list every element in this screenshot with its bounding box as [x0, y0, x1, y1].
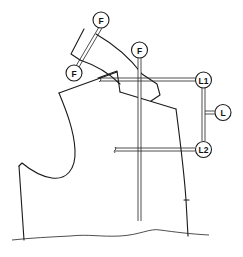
label-l1: L1: [196, 72, 212, 88]
label-f-top-text: F: [98, 16, 103, 26]
guide-horizontal-l2: [114, 147, 195, 153]
guide-horizontal-l1: [99, 77, 195, 82]
garment-pattern-diagram: F F F L1 L L2: [0, 0, 243, 257]
label-l2-text: L2: [199, 145, 209, 155]
guide-vertical-f: [138, 58, 141, 221]
label-f-top: F: [93, 12, 109, 28]
label-l-text: L: [220, 108, 225, 118]
label-f-left: F: [66, 65, 82, 81]
label-l: L: [215, 105, 231, 121]
label-l1-text: L1: [199, 76, 209, 86]
guide-collar-f: [76, 27, 102, 67]
label-f-mid: F: [132, 42, 148, 58]
label-l2: L2: [196, 142, 212, 158]
bodice-outline: [12, 72, 209, 240]
label-f-left-text: F: [71, 69, 76, 79]
label-f-mid-text: F: [137, 46, 142, 56]
guide-l-bracket: [202, 88, 215, 141]
collar: [71, 29, 176, 109]
